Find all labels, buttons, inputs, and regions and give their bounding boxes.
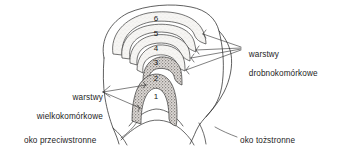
parvocellular-label: warstwy drobnokomórkowe	[244, 40, 318, 78]
ipsilateral-eye-label: oko tożstronne	[240, 136, 295, 146]
parvocellular-label-line1: warstwy	[249, 50, 279, 59]
layer-number-6: 6	[149, 14, 163, 23]
layer-number-3: 3	[149, 58, 163, 67]
parvocellular-leader-lines	[186, 30, 241, 74]
parvocellular-label-line2: drobnokomórkowe	[249, 69, 318, 78]
contralateral-leader-line	[121, 122, 137, 138]
layer-number-2: 2	[149, 74, 163, 83]
magnocellular-label: warstwy wielkokomórkowe	[32, 83, 103, 121]
contralateral-eye-label: oko przeciwstronne	[24, 136, 96, 146]
layer-number-4: 4	[149, 44, 163, 53]
layer-number-1: 1	[149, 92, 163, 101]
ipsilateral-leader-line	[215, 127, 237, 137]
magnocellular-label-line1: warstwy	[73, 93, 103, 102]
magnocellular-label-line2: wielkokomórkowe	[37, 112, 103, 121]
layer-number-5: 5	[149, 29, 163, 38]
